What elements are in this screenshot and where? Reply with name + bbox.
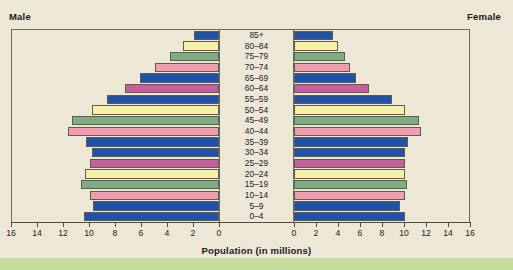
male-bar [72, 116, 219, 125]
x-axis-tick-label: 2 [183, 228, 203, 238]
age-group-label: 70–74 [220, 63, 293, 71]
x-axis-tick [115, 222, 116, 227]
x-axis-tick-label: 4 [328, 228, 348, 238]
male-bar [125, 84, 219, 93]
x-axis-tick [448, 222, 449, 227]
male-bar [68, 127, 219, 136]
age-group-label: 40–44 [220, 127, 293, 135]
male-bar [93, 201, 219, 210]
age-group-label: 25–29 [220, 159, 293, 167]
x-axis-tick [426, 222, 427, 227]
female-bar [294, 201, 400, 210]
female-bar [294, 127, 421, 136]
age-group-axis: 85+80–8475–7970–7465–6960–6455–5950–5445… [219, 30, 294, 222]
x-axis-tick [360, 222, 361, 227]
x-axis-tick-label: 6 [350, 228, 370, 238]
male-bar [155, 63, 219, 72]
x-axis-tick-label: 16 [460, 228, 480, 238]
age-group-label: 65–69 [220, 74, 293, 82]
female-bar [294, 116, 419, 125]
x-axis-tick [11, 222, 12, 227]
x-axis-tick-label: 16 [1, 228, 21, 238]
x-axis-tick [470, 222, 471, 227]
age-group-label: 60–64 [220, 84, 293, 92]
female-bar [294, 180, 407, 189]
age-group-label: 20–24 [220, 170, 293, 178]
age-group-label: 50–54 [220, 106, 293, 114]
female-side-label: Female [467, 11, 501, 22]
male-bar [140, 73, 219, 82]
female-bar [294, 169, 405, 178]
male-bar [86, 137, 219, 146]
x-axis-line [11, 222, 470, 223]
male-side-label: Male [9, 11, 31, 22]
female-bar [294, 137, 408, 146]
x-axis-tick [404, 222, 405, 227]
x-axis-tick-label: 14 [438, 228, 458, 238]
x-axis-tick [338, 222, 339, 227]
male-bar [81, 180, 219, 189]
female-bar [294, 73, 356, 82]
male-bar [107, 95, 219, 104]
x-axis-tick-label: 0 [284, 228, 304, 238]
age-group-label: 0–4 [220, 212, 293, 220]
x-axis-tick-label: 10 [79, 228, 99, 238]
female-bar [294, 105, 405, 114]
x-axis-tick [167, 222, 168, 227]
age-group-label: 80–84 [220, 42, 293, 50]
female-bar [294, 41, 338, 50]
female-bar [294, 95, 392, 104]
x-axis-tick [193, 222, 194, 227]
age-group-label: 35–39 [220, 138, 293, 146]
x-axis-title: Population (in millions) [0, 245, 513, 256]
age-group-label: 75–79 [220, 52, 293, 60]
female-bar [294, 159, 405, 168]
x-axis-tick [382, 222, 383, 227]
x-axis-tick-label: 8 [105, 228, 125, 238]
x-axis-tick-label: 8 [372, 228, 392, 238]
age-group-label: 45–49 [220, 116, 293, 124]
female-bar [294, 52, 345, 61]
x-axis-tick-label: 4 [157, 228, 177, 238]
male-bar [92, 148, 219, 157]
female-bar [294, 84, 369, 93]
female-bar [294, 31, 333, 40]
female-bar [294, 212, 405, 221]
female-bar [294, 63, 350, 72]
male-bar [183, 41, 219, 50]
x-axis-tick-label: 2 [306, 228, 326, 238]
male-bar [90, 159, 219, 168]
x-axis-tick-label: 0 [209, 228, 229, 238]
age-group-label: 5–9 [220, 202, 293, 210]
male-bar [92, 105, 219, 114]
male-bar [194, 31, 219, 40]
x-axis-tick [316, 222, 317, 227]
age-group-label: 15–19 [220, 180, 293, 188]
age-group-label: 10–14 [220, 191, 293, 199]
male-bar [170, 52, 219, 61]
male-bar [84, 212, 219, 221]
x-axis-tick-label: 10 [394, 228, 414, 238]
x-axis-tick [89, 222, 90, 227]
x-axis-tick [141, 222, 142, 227]
age-group-label: 85+ [220, 31, 293, 39]
x-axis-tick-label: 6 [131, 228, 151, 238]
population-pyramid-figure: Male Female 85+80–8475–7970–7465–6960–64… [0, 0, 513, 270]
x-axis-tick [37, 222, 38, 227]
x-axis-tick-label: 12 [53, 228, 73, 238]
age-group-label: 55–59 [220, 95, 293, 103]
x-axis-tick [219, 222, 220, 227]
x-axis-tick-label: 12 [416, 228, 436, 238]
bottom-decorative-strip [0, 258, 513, 270]
male-bar [85, 169, 219, 178]
x-axis-tick-label: 14 [27, 228, 47, 238]
female-bar [294, 148, 405, 157]
female-bar [294, 191, 405, 200]
age-group-label: 30–34 [220, 148, 293, 156]
x-axis-tick [63, 222, 64, 227]
x-axis-tick [294, 222, 295, 227]
male-bar [90, 191, 219, 200]
